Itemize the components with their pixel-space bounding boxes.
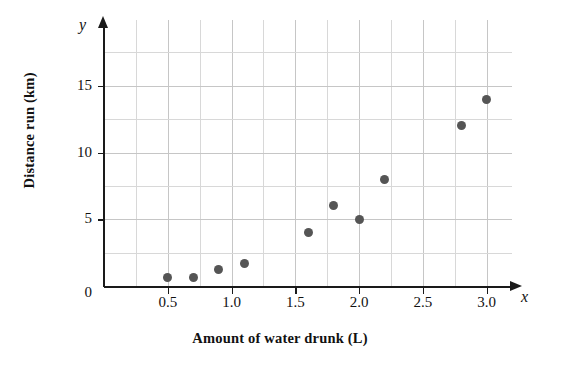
x-axis-tick-label: 2.5 bbox=[400, 294, 446, 311]
gridlines bbox=[104, 20, 512, 287]
gridline-horizontal bbox=[104, 219, 512, 220]
y-axis-tick bbox=[98, 153, 105, 154]
y-axis-tick-label: 15 bbox=[56, 77, 92, 94]
y-axis-line bbox=[103, 26, 105, 287]
x-axis-variable-label: x bbox=[521, 288, 528, 306]
y-axis-title: Distance run (km) bbox=[21, 129, 38, 189]
y-axis-variable-label: y bbox=[79, 16, 86, 34]
x-axis-line bbox=[104, 286, 512, 288]
plot-area bbox=[104, 20, 512, 287]
gridline-horizontal bbox=[104, 52, 512, 53]
x-axis-tick bbox=[423, 287, 424, 294]
gridline-vertical bbox=[455, 20, 456, 287]
gridline-vertical bbox=[263, 20, 264, 287]
x-axis-tick-label: 0.5 bbox=[145, 294, 191, 311]
y-axis-arrow-icon bbox=[98, 16, 108, 28]
x-axis-tick-label: 1.0 bbox=[209, 294, 255, 311]
x-axis-tick-label: 1.5 bbox=[272, 294, 318, 311]
gridline-vertical bbox=[391, 20, 392, 287]
gridline-horizontal bbox=[104, 119, 512, 120]
x-axis-tick bbox=[295, 287, 296, 294]
gridline-vertical bbox=[423, 20, 424, 287]
x-axis-tick-label: 3.0 bbox=[464, 294, 510, 311]
gridline-vertical bbox=[487, 20, 488, 287]
scatter-plot-figure: Distance run (km) Amount of water drunk … bbox=[0, 0, 568, 368]
x-axis-tick bbox=[487, 287, 488, 294]
y-axis-tick bbox=[98, 219, 105, 220]
y-axis-tick-label: 10 bbox=[56, 144, 92, 161]
y-axis-tick bbox=[98, 86, 105, 87]
x-axis-tick bbox=[232, 287, 233, 294]
gridline-horizontal bbox=[104, 86, 512, 87]
gridline-horizontal bbox=[104, 153, 512, 154]
gridline-vertical bbox=[232, 20, 233, 287]
gridline-vertical bbox=[168, 20, 169, 287]
origin-label: 0 bbox=[56, 284, 92, 301]
x-axis-tick bbox=[168, 287, 169, 294]
x-axis-tick-label: 2.0 bbox=[336, 294, 382, 311]
gridline-horizontal bbox=[104, 186, 512, 187]
gridline-vertical bbox=[359, 20, 360, 287]
gridline-vertical bbox=[200, 20, 201, 287]
y-axis-tick-label: 5 bbox=[56, 210, 92, 227]
gridline-vertical bbox=[327, 20, 328, 287]
gridline-horizontal bbox=[104, 253, 512, 254]
x-axis-title: Amount of water drunk (L) bbox=[120, 330, 440, 347]
gridline-vertical bbox=[136, 20, 137, 287]
gridline-vertical bbox=[295, 20, 296, 287]
x-axis-tick bbox=[359, 287, 360, 294]
